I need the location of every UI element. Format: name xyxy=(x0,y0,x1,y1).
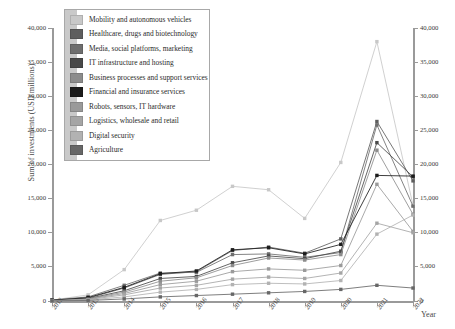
data-point-marker xyxy=(303,217,306,220)
legend-item[interactable]: Business processes and support services xyxy=(77,71,208,84)
data-point-marker xyxy=(339,288,342,291)
legend-swatch-icon xyxy=(70,44,83,54)
data-point-marker xyxy=(411,179,414,182)
legend-item[interactable]: Digital security xyxy=(77,129,208,142)
data-point-marker xyxy=(339,161,342,164)
series-path xyxy=(52,175,413,300)
legend-swatch-icon xyxy=(70,73,83,83)
legend-swatch-icon xyxy=(70,145,83,155)
legend-swatch-icon xyxy=(70,29,83,39)
data-point-marker xyxy=(231,270,234,273)
legend-item[interactable]: Agriculture xyxy=(77,144,208,157)
series-path xyxy=(52,143,413,301)
data-point-marker xyxy=(411,213,414,216)
x-axis-title: Year xyxy=(421,310,436,319)
data-point-marker xyxy=(159,283,162,286)
data-point-marker xyxy=(267,275,270,278)
data-point-marker xyxy=(159,280,162,283)
data-point-marker xyxy=(195,280,198,283)
legend-item[interactable]: Media, social platforms, marketing xyxy=(77,42,208,55)
data-point-marker xyxy=(267,246,270,249)
data-point-marker xyxy=(303,269,306,272)
data-point-marker xyxy=(123,297,126,300)
data-point-marker xyxy=(267,267,270,270)
legend-item-label: Mobility and autonomous vehicles xyxy=(89,16,191,23)
data-point-marker xyxy=(231,292,234,295)
data-point-marker xyxy=(50,299,53,302)
data-point-marker xyxy=(231,248,234,251)
legend-item-label: Logistics, wholesale and retail xyxy=(89,117,179,124)
data-point-marker xyxy=(375,120,378,123)
data-point-marker xyxy=(231,185,234,188)
legend-item[interactable]: IT infrastructure and hosting xyxy=(77,57,208,70)
data-point-marker xyxy=(375,123,378,126)
data-point-marker xyxy=(411,231,414,234)
data-point-marker xyxy=(86,299,89,302)
legend-items: Mobility and autonomous vehiclesHealthca… xyxy=(77,10,210,160)
data-point-marker xyxy=(375,284,378,287)
data-point-marker xyxy=(159,290,162,293)
data-point-marker xyxy=(195,284,198,287)
data-point-marker xyxy=(339,243,342,246)
data-point-marker xyxy=(195,209,198,212)
legend-item-label: Healthcare, drugs and biotechnology xyxy=(89,30,198,37)
legend-item-label: Media, social platforms, marketing xyxy=(89,45,193,52)
legend-item-label: Agriculture xyxy=(89,146,123,153)
data-point-marker xyxy=(303,282,306,285)
series-line xyxy=(50,213,414,302)
data-point-marker xyxy=(303,258,306,261)
legend-swatch-icon xyxy=(70,15,83,25)
data-point-marker xyxy=(375,183,378,186)
data-point-marker xyxy=(303,290,306,293)
legend-item-label: Financial and insurance services xyxy=(89,88,185,95)
legend-item-label: Business processes and support services xyxy=(89,74,208,81)
data-point-marker xyxy=(339,271,342,274)
data-point-marker xyxy=(375,40,378,43)
legend-item-label: Digital security xyxy=(89,132,135,139)
data-point-marker xyxy=(195,294,198,297)
data-point-marker xyxy=(231,283,234,286)
data-point-marker xyxy=(339,237,342,240)
data-point-marker xyxy=(303,252,306,255)
data-point-marker xyxy=(195,288,198,291)
legend-item-label: IT infrastructure and hosting xyxy=(89,59,174,66)
legend-item[interactable]: Healthcare, drugs and biotechnology xyxy=(77,28,208,41)
data-point-marker xyxy=(123,268,126,271)
data-point-marker xyxy=(339,253,342,256)
legend-swatch-icon xyxy=(70,102,83,112)
data-point-marker xyxy=(267,256,270,259)
legend-swatch-icon xyxy=(70,87,83,97)
data-point-marker xyxy=(375,222,378,225)
data-point-marker xyxy=(375,141,378,144)
data-point-marker xyxy=(411,286,414,289)
legend-item[interactable]: Robots, sensors, IT hardware xyxy=(77,100,208,113)
data-point-marker xyxy=(123,286,126,289)
legend-swatch-icon xyxy=(70,131,83,141)
data-point-marker xyxy=(375,148,378,151)
data-point-marker xyxy=(303,277,306,280)
data-point-marker xyxy=(231,277,234,280)
legend-item[interactable]: Financial and insurance services xyxy=(77,86,208,99)
data-point-marker xyxy=(411,174,414,177)
legend-item[interactable]: Logistics, wholesale and retail xyxy=(77,115,208,128)
data-point-marker xyxy=(267,291,270,294)
data-point-marker xyxy=(267,188,270,191)
legend-swatch-icon xyxy=(70,58,83,68)
data-point-marker xyxy=(231,253,234,256)
legend-item[interactable]: Mobility and autonomous vehicles xyxy=(77,13,208,26)
data-point-marker xyxy=(159,286,162,289)
data-point-marker xyxy=(375,174,378,177)
data-point-marker xyxy=(411,204,414,207)
data-point-marker xyxy=(339,264,342,267)
data-point-marker xyxy=(195,269,198,272)
data-point-marker xyxy=(159,272,162,275)
legend-item-label: Robots, sensors, IT hardware xyxy=(89,103,175,110)
series-path xyxy=(52,215,413,301)
chart-legend: Mobility and autonomous vehiclesHealthca… xyxy=(64,9,210,161)
data-point-marker xyxy=(339,279,342,282)
chart-container: Sum of investments (USD millions) 05,000… xyxy=(0,0,455,329)
data-point-marker xyxy=(195,276,198,279)
data-point-marker xyxy=(375,232,378,235)
legend-swatch-icon xyxy=(70,116,83,126)
data-point-marker xyxy=(159,295,162,298)
